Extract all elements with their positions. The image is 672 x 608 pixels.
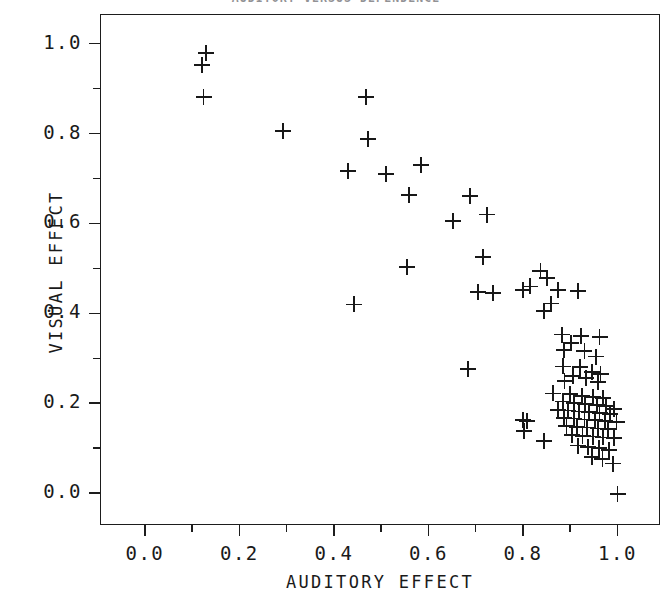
y-axis-major-tick <box>89 43 100 45</box>
y-axis-minor-tick <box>93 268 100 270</box>
marker-vertical-stroke <box>486 207 488 223</box>
x-axis-major-tick <box>617 525 619 536</box>
marker-vertical-stroke <box>552 385 554 401</box>
y-axis-minor-tick <box>93 447 100 449</box>
marker-vertical-stroke <box>597 420 599 436</box>
marker-vertical-stroke <box>563 410 565 426</box>
x-axis-tick-label: 0.6 <box>388 542 468 564</box>
marker-vertical-stroke <box>365 89 367 105</box>
x-axis-tick-label: 0.0 <box>105 542 185 564</box>
y-axis-tick-label: 0.6 <box>2 210 82 232</box>
x-axis-tick-label: 0.4 <box>294 542 374 564</box>
marker-vertical-stroke <box>203 89 205 105</box>
marker-vertical-stroke <box>599 329 601 345</box>
x-axis-minor-tick <box>286 525 288 532</box>
marker-vertical-stroke <box>529 278 531 294</box>
x-axis-major-tick <box>239 525 241 536</box>
marker-vertical-stroke <box>586 420 588 436</box>
marker-vertical-stroke <box>492 285 494 301</box>
y-axis-major-tick <box>89 223 100 225</box>
marker-vertical-stroke <box>557 402 559 418</box>
y-axis-major-tick <box>89 402 100 404</box>
y-axis-major-tick <box>89 313 100 315</box>
marker-vertical-stroke <box>566 418 568 434</box>
y-axis-tick-label: 0.0 <box>2 480 82 502</box>
marker-vertical-stroke <box>564 373 566 389</box>
marker-vertical-stroke <box>562 394 564 410</box>
x-axis-major-tick <box>522 525 524 536</box>
marker-vertical-stroke <box>420 157 422 173</box>
marker-vertical-stroke <box>571 427 573 443</box>
marker-vertical-stroke <box>613 430 615 446</box>
y-axis-major-tick <box>89 492 100 494</box>
x-axis-tick-label: 1.0 <box>577 542 657 564</box>
marker-vertical-stroke <box>477 284 479 300</box>
marker-vertical-stroke <box>602 429 604 445</box>
marker-vertical-stroke <box>469 188 471 204</box>
marker-vertical-stroke <box>612 456 614 472</box>
marker-vertical-stroke <box>367 131 369 147</box>
marker-vertical-stroke <box>595 349 597 365</box>
marker-vertical-stroke <box>587 439 589 455</box>
marker-vertical-stroke <box>572 368 574 384</box>
marker-vertical-stroke <box>353 296 355 312</box>
marker-vertical-stroke <box>577 283 579 299</box>
plot-area <box>101 15 659 524</box>
marker-vertical-stroke <box>592 429 594 445</box>
y-axis-major-tick <box>89 133 100 135</box>
marker-vertical-stroke <box>561 327 563 343</box>
scatter-plot-figure: AUDITORY VERSUS DEPENDENCE 0.00.20.40.60… <box>0 0 672 608</box>
marker-vertical-stroke <box>602 451 604 467</box>
y-axis-minor-tick <box>93 88 100 90</box>
marker-vertical-stroke <box>347 163 349 179</box>
plot-frame <box>100 14 660 525</box>
marker-vertical-stroke <box>617 486 619 502</box>
marker-vertical-stroke <box>201 57 203 73</box>
marker-vertical-stroke <box>482 249 484 265</box>
y-axis-tick-label: 0.8 <box>2 121 82 143</box>
marker-vertical-stroke <box>205 45 207 61</box>
y-axis-tick-label: 1.0 <box>2 31 82 53</box>
marker-vertical-stroke <box>598 440 600 456</box>
marker-vertical-stroke <box>580 328 582 344</box>
marker-vertical-stroke <box>563 342 565 358</box>
marker-vertical-stroke <box>579 359 581 375</box>
marker-vertical-stroke <box>452 213 454 229</box>
marker-vertical-stroke <box>597 374 599 390</box>
marker-vertical-stroke <box>607 421 609 437</box>
marker-vertical-stroke <box>577 438 579 454</box>
y-axis-minor-tick <box>93 358 100 360</box>
marker-vertical-stroke <box>408 187 410 203</box>
y-axis-minor-tick <box>93 178 100 180</box>
y-axis-tick-label: 0.2 <box>2 390 82 412</box>
marker-vertical-stroke <box>582 428 584 444</box>
marker-vertical-stroke <box>608 442 610 458</box>
marker-vertical-stroke <box>543 433 545 449</box>
x-axis-major-tick <box>144 525 146 536</box>
page-title: AUDITORY VERSUS DEPENDENCE <box>0 0 672 5</box>
marker-vertical-stroke <box>406 259 408 275</box>
x-axis-tick-label: 0.8 <box>483 542 563 564</box>
marker-vertical-stroke <box>543 303 545 319</box>
x-axis-minor-tick <box>569 525 571 532</box>
marker-vertical-stroke <box>546 270 548 286</box>
marker-vertical-stroke <box>385 166 387 182</box>
marker-vertical-stroke <box>557 282 559 298</box>
x-axis-minor-tick <box>475 525 477 532</box>
x-axis-major-tick <box>333 525 335 536</box>
marker-vertical-stroke <box>522 282 524 298</box>
x-axis-minor-tick <box>380 525 382 532</box>
marker-vertical-stroke <box>526 413 528 429</box>
x-axis-label: AUDITORY EFFECT <box>100 572 660 592</box>
marker-vertical-stroke <box>600 366 602 382</box>
y-axis-tick-label: 0.4 <box>2 300 82 322</box>
marker-vertical-stroke <box>467 361 469 377</box>
marker-vertical-stroke <box>576 419 578 435</box>
marker-vertical-stroke <box>282 123 284 139</box>
x-axis-tick-label: 0.2 <box>199 542 279 564</box>
x-axis-major-tick <box>428 525 430 536</box>
y-axis-label: VISUAL EFFECT <box>46 112 66 432</box>
x-axis-minor-tick <box>191 525 193 532</box>
marker-vertical-stroke <box>584 343 586 359</box>
marker-vertical-stroke <box>523 423 525 439</box>
